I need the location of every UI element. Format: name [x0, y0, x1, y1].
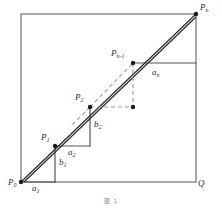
point-dot-corner: [131, 105, 135, 109]
point-label-pn-1: Pn-1: [111, 49, 125, 58]
figure-container: P0 P1 P2 Pn-1 Pn Q a1 b1 a2 b2 an 图 1: [0, 0, 222, 212]
point-label-p1: P1: [41, 133, 50, 142]
point-dot-p2: [88, 105, 92, 109]
point-dot-p1: [53, 144, 57, 148]
point-dot-pn: [194, 12, 198, 16]
segment-label-b2: b2: [94, 120, 102, 129]
diagonal-lower: [24, 17, 196, 182]
staircase-steps: [21, 63, 196, 182]
segment-label-a1: a1: [32, 184, 40, 193]
point-dot-pn-1: [131, 61, 135, 65]
diagonal-lines: [21, 14, 196, 182]
dashed-p2-to-pn1: [90, 63, 133, 107]
figure-drawing: [0, 0, 222, 212]
point-dot-p0: [19, 180, 23, 184]
point-label-q: Q: [198, 179, 205, 188]
point-label-pn: Pn: [200, 3, 209, 12]
diagonal-upper: [21, 14, 196, 182]
segment-label-a2: a2: [68, 148, 76, 157]
point-label-p0: P0: [8, 178, 17, 187]
point-label-p2: P2: [75, 93, 84, 102]
segment-label-b1: b1: [59, 158, 67, 167]
segment-label-an: an: [152, 68, 160, 77]
dashed-lower-left-tail: [70, 107, 90, 127]
figure-caption: 图 1: [0, 196, 222, 205]
